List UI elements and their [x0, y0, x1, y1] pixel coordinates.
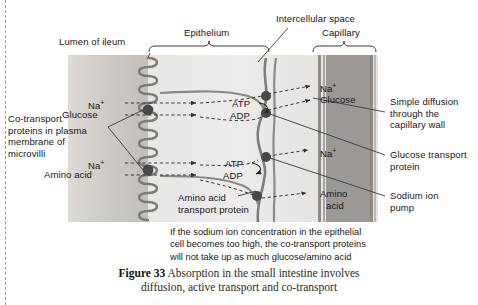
- page-edge-rule: [5, 0, 6, 305]
- note-line-2: cell becomes too high, the co-transport …: [170, 238, 420, 250]
- label-adp-upper: ADP: [230, 110, 250, 122]
- simple-diffusion-line-2: through the: [390, 108, 459, 120]
- label-na-cap-top-text: Na: [320, 83, 332, 94]
- annotation-simple-diffusion: Simple diffusion through the capillary w…: [390, 96, 459, 131]
- label-glucose-lumen: Glucose: [62, 109, 98, 121]
- note-line-3: will not take up as much glucose/amino a…: [170, 251, 420, 263]
- capillary-wall-right-outer: [374, 55, 376, 222]
- caption-line-2: diffusion, active transport and co-trans…: [0, 280, 478, 294]
- label-amino-acid-lumen: Amino acid: [44, 169, 92, 181]
- figure-caption: Figure 33 Absorption in the small intest…: [0, 266, 478, 294]
- amino-transport-line-1: Amino acid: [178, 192, 249, 204]
- note-line-1: If the sodium ion concentration in the e…: [170, 226, 420, 238]
- caption-line-1: Figure 33 Absorption in the small intest…: [0, 266, 478, 280]
- label-amino-acid-capillary: Amino acid: [320, 188, 347, 211]
- amino-cap-line-2: acid: [326, 200, 353, 212]
- caption-text-1: Absorption in the small intestine involv…: [168, 267, 360, 279]
- glucose-transport-line-1: Glucose transport: [390, 149, 467, 161]
- co-transport-line-2: proteins in plasma: [8, 125, 108, 137]
- label-atp-upper: ATP: [232, 98, 250, 110]
- explanatory-note: If the sodium ion concentration in the e…: [170, 226, 420, 263]
- glucose-transport-line-2: protein: [390, 161, 467, 173]
- label-atp-lower: ATP: [225, 158, 243, 170]
- amino-cap-line-1: Amino: [320, 188, 347, 200]
- label-lumen-of-ileum: Lumen of ileum: [59, 36, 125, 48]
- figure-number: Figure 33: [119, 267, 166, 279]
- label-na-cap-mid-charge: +: [332, 147, 336, 154]
- annotation-sodium-ion-pump: Sodium ion pump: [390, 190, 439, 213]
- label-na-capillary-top: Na+: [320, 80, 337, 95]
- label-adp-lower: ADP: [223, 170, 243, 182]
- label-epithelium: Epithelium: [184, 27, 229, 39]
- label-intercellular-space: Intercellular space: [276, 13, 355, 25]
- bracket-capillary: [313, 41, 376, 52]
- sodium-pump-line-2: pump: [390, 202, 439, 214]
- sodium-pump-line-1: Sodium ion: [390, 190, 439, 202]
- label-na-capillary-mid: Na+: [320, 145, 337, 160]
- simple-diffusion-line-1: Simple diffusion: [390, 96, 459, 108]
- label-na-cap-top-charge: +: [332, 82, 336, 89]
- label-glucose-capillary: Glucose: [320, 94, 356, 106]
- co-transport-line-3: membrane of: [8, 136, 108, 148]
- amino-transport-line-2: transport protein: [178, 204, 249, 216]
- label-na-upper-charge: +: [100, 99, 104, 106]
- annotation-amino-acid-transport-protein: Amino acid transport protein: [178, 192, 249, 215]
- bracket-epithelium: [149, 41, 269, 52]
- figure-container: Lumen of ileum Epithelium Intercellular …: [0, 0, 478, 305]
- label-na-cap-mid-text: Na: [320, 148, 332, 159]
- annotation-glucose-transport-protein: Glucose transport protein: [390, 149, 467, 172]
- simple-diffusion-line-3: capillary wall: [390, 119, 459, 131]
- label-capillary: Capillary: [322, 27, 360, 39]
- label-na-lower-charge: +: [100, 159, 104, 166]
- capillary-wall-right: [370, 55, 373, 222]
